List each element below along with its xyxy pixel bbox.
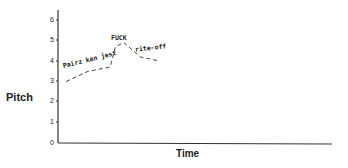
annotation-2: FUCK — [111, 34, 127, 42]
chart-plot — [0, 0, 348, 168]
axes — [56, 10, 332, 144]
x-axis-line — [58, 143, 332, 144]
